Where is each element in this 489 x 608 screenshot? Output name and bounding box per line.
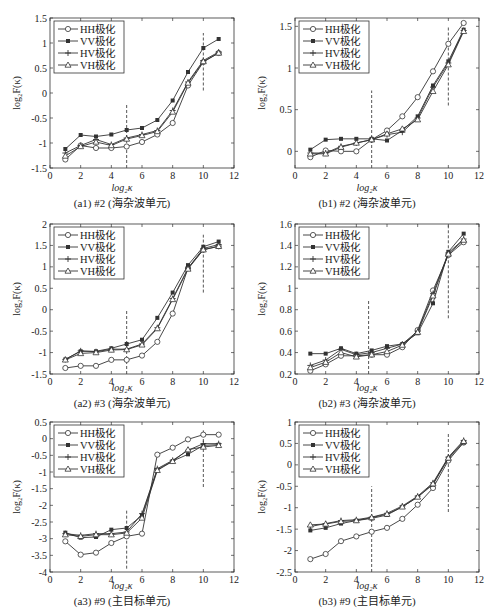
y-tick-label: -3 [39, 533, 47, 544]
legend-label: HV极化 [80, 451, 116, 463]
chart-panel-b3: 024681012-2.5-2-1.5-1-0.500.51log₂F(κ)HH… [245, 404, 489, 604]
x-tick-label: 10 [443, 170, 453, 181]
x-tick-label: 4 [354, 170, 359, 181]
legend-label: VH极化 [325, 463, 361, 475]
y-tick-label: -0.5 [31, 113, 47, 124]
chart-a3-plot: 024681012-4-3.5-3-2.5-2-1.5-1-0.500.5log… [0, 404, 244, 584]
x-tick-label: 0 [293, 170, 298, 181]
legend-label: HH极化 [325, 229, 361, 241]
chart-a1-xlabel: log₂κ [0, 182, 244, 193]
y-axis-label: log₂F(κ) [11, 480, 23, 514]
y-tick-label: 1 [287, 63, 292, 74]
legend-label: VH极化 [80, 463, 116, 475]
legend-label: HV极化 [80, 47, 116, 59]
y-axis-label: log₂F(κ) [11, 282, 23, 316]
y-tick-label: 1 [42, 38, 47, 49]
legend: HH极化VV极化HV极化VH极化 [299, 227, 369, 279]
legend-label: VH极化 [80, 59, 116, 71]
chart-panel-b2: 0246810120.20.40.60.811.21.41.6log₂F(κ)H… [245, 206, 489, 406]
y-tick-label: 1 [287, 283, 292, 294]
legend: HH极化VV极化HV极化VH极化 [299, 425, 369, 477]
y-tick-label: -2.5 [31, 517, 47, 528]
legend-label: VH极化 [325, 59, 361, 71]
y-tick-label: -2 [284, 545, 292, 556]
legend-label: VV极化 [80, 439, 116, 451]
legend-label: VV极化 [325, 241, 361, 253]
legend-label: VV极化 [80, 35, 116, 47]
x-tick-label: 4 [109, 170, 114, 181]
legend-label: HV极化 [325, 451, 361, 463]
legend-label: HH极化 [80, 427, 116, 439]
x-tick-label: 6 [385, 170, 390, 181]
y-tick-label: 0 [287, 146, 292, 157]
legend-label: HV极化 [325, 253, 361, 265]
chart-b1-plot: 02468101200.511.5log₂F(κ)HH极化VV极化HV极化VH极… [245, 0, 489, 180]
y-tick-label: 0.5 [35, 63, 48, 74]
y-tick-label: 1.5 [35, 240, 48, 251]
legend: HH极化VV极化HV极化VH极化 [299, 21, 369, 73]
legend-label: VH极化 [80, 265, 116, 277]
legend-label: VV极化 [325, 439, 361, 451]
y-tick-label: -1 [39, 138, 47, 149]
y-tick-label: -1.5 [31, 369, 47, 380]
y-tick-label: 1.2 [280, 261, 293, 272]
x-tick-label: 6 [140, 170, 145, 181]
x-tick-label: 12 [229, 170, 239, 181]
y-tick-label: 0.5 [280, 438, 293, 449]
x-tick-label: 2 [323, 170, 328, 181]
y-tick-label: 2 [42, 219, 47, 230]
legend-label: VH极化 [325, 265, 361, 277]
y-tick-label: -1 [39, 347, 47, 358]
y-tick-label: 0.5 [280, 104, 293, 115]
x-tick-label: 12 [474, 170, 484, 181]
y-axis-label: log₂F(κ) [256, 282, 268, 316]
y-tick-label: -4 [39, 567, 47, 578]
chart-b2-xlabel: log₂κ [245, 382, 489, 393]
legend-label: HH极化 [325, 23, 361, 35]
chart-b3-xlabel: log₂κ [245, 580, 489, 591]
chart-b1-xlabel: log₂κ [245, 182, 489, 193]
y-tick-label: 0.4 [280, 347, 293, 358]
chart-panel-a3: 024681012-4-3.5-3-2.5-2-1.5-1-0.500.5log… [0, 404, 244, 604]
y-tick-label: 1.6 [280, 219, 293, 230]
chart-a2-xlabel: log₂κ [0, 382, 244, 393]
chart-panel-b1: 02468101200.511.5log₂F(κ)HH极化VV极化HV极化VH极… [245, 0, 489, 200]
y-tick-label: -1 [39, 467, 47, 478]
chart-b3-caption: (b3) #9 (主目标单元) [245, 592, 489, 608]
legend-label: VV极化 [80, 241, 116, 253]
chart-panel-a1: 024681012-1.5-1-0.500.511.5log₂F(κ)HH极化V… [0, 0, 244, 200]
y-tick-label: 0 [287, 459, 292, 470]
legend-label: HH极化 [80, 229, 116, 241]
y-tick-label: -1 [284, 502, 292, 513]
y-axis-label: log₂F(κ) [11, 76, 23, 110]
x-tick-label: 2 [78, 170, 83, 181]
legend-label: HH极化 [80, 23, 116, 35]
legend: HH极化VV极化HV极化VH极化 [54, 227, 124, 279]
y-tick-label: 0.5 [35, 417, 48, 428]
y-tick-label: -1.5 [276, 524, 292, 535]
chart-b3-plot: 024681012-2.5-2-1.5-1-0.500.51log₂F(κ)HH… [245, 404, 489, 584]
chart-a1-plot: 024681012-1.5-1-0.500.511.5log₂F(κ)HH极化V… [0, 0, 244, 180]
y-tick-label: -0.5 [276, 481, 292, 492]
chart-a3-xlabel: log₂κ [0, 580, 244, 591]
x-tick-label: 8 [415, 170, 420, 181]
y-tick-label: -0.5 [31, 450, 47, 461]
legend-label: HH极化 [325, 427, 361, 439]
y-axis-label: log₂F(κ) [256, 76, 268, 110]
y-tick-label: 1 [42, 261, 47, 272]
y-tick-label: 1.4 [280, 240, 293, 251]
y-tick-label: 0 [42, 433, 47, 444]
y-tick-label: -2 [39, 500, 47, 511]
y-tick-label: 1 [287, 417, 292, 428]
y-tick-label: 0.6 [280, 326, 293, 337]
legend-label: VV极化 [325, 35, 361, 47]
x-tick-label: 0 [48, 170, 53, 181]
y-tick-label: 0.5 [35, 283, 48, 294]
y-tick-label: 0 [42, 88, 47, 99]
legend-label: HV极化 [325, 47, 361, 59]
chart-a3-caption: (a3) #9 (主目标单元) [0, 592, 244, 608]
y-tick-label: -2.5 [276, 567, 292, 578]
y-tick-label: 0 [42, 304, 47, 315]
chart-panel-a2: 024681012-1.5-1-0.500.511.52log₂F(κ)HH极化… [0, 206, 244, 406]
legend: HH极化VV极化HV极化VH极化 [54, 425, 124, 477]
